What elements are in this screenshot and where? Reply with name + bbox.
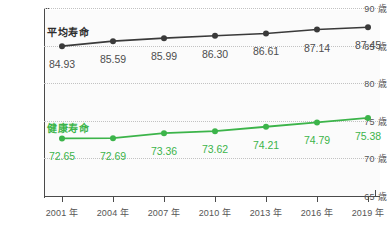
gridline-90: [44, 8, 380, 9]
x-axis-tick-label-2016: 2016 年: [301, 206, 334, 219]
value-label-1-2016: 74.79: [304, 134, 330, 146]
value-label-1-2019: 75.38: [355, 130, 381, 142]
x-axis-tick-label-2019: 2019 年: [352, 206, 385, 219]
value-label-1-2001: 72.65: [49, 150, 75, 162]
value-label-1-2013: 74.21: [253, 139, 279, 151]
value-label-0-2013: 86.61: [253, 45, 279, 57]
x-axis-tick-2010: [215, 196, 216, 202]
gridline-75: [44, 121, 380, 122]
value-label-0-2010: 86.30: [202, 48, 228, 60]
y-axis-tick-label-90: 90 歳: [347, 2, 387, 15]
x-axis-tick-2016: [317, 196, 318, 202]
value-label-0-2001: 84.93: [49, 58, 75, 70]
x-axis-tick-2001: [62, 196, 63, 202]
y-axis-tick-label-70: 70 歳: [347, 152, 387, 165]
x-axis-tick-2007: [164, 196, 165, 202]
series-label-healthy-life-expectancy: 健康寿命: [47, 120, 89, 135]
x-axis-line: [44, 196, 380, 197]
x-axis-tick-label-2004: 2004 年: [97, 206, 130, 219]
life-expectancy-line-chart: 65 歳70 歳75 歳80 歳85 歳90 歳 2001 年2004 年200…: [0, 0, 387, 228]
y-axis-tick-label-65: 65 歳: [347, 190, 387, 203]
gridline-80: [44, 83, 380, 84]
x-axis-tick-label-2007: 2007 年: [148, 206, 181, 219]
y-axis-tick-label-75: 75 歳: [347, 114, 387, 127]
x-axis-tick-label-2013: 2013 年: [250, 206, 283, 219]
y-axis-line: [44, 8, 45, 198]
x-axis-tick-2013: [266, 196, 267, 202]
x-axis-tick-2019: [368, 196, 369, 202]
y-axis-tick-label-80: 80 歳: [347, 77, 387, 90]
value-label-0-2016: 87.14: [304, 42, 330, 54]
x-axis-tick-label-2001: 2001 年: [46, 206, 79, 219]
gridline-70: [44, 158, 380, 159]
value-label-1-2004: 72.69: [100, 150, 126, 162]
value-label-0-2004: 85.59: [100, 53, 126, 65]
value-label-1-2007: 73.36: [151, 145, 177, 157]
value-label-1-2010: 73.62: [202, 143, 228, 155]
x-axis-tick-label-2010: 2010 年: [199, 206, 232, 219]
value-label-0-2019: 87.45: [355, 39, 381, 51]
x-axis-tick-2004: [113, 196, 114, 202]
plot-area: [44, 10, 380, 196]
value-label-0-2007: 85.99: [151, 50, 177, 62]
series-label-average-life-expectancy: 平均寿命: [47, 24, 89, 39]
